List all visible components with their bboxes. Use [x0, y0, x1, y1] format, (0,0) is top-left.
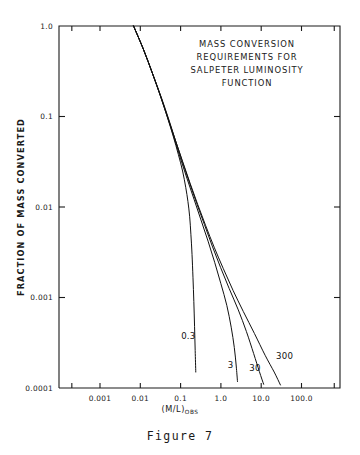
- figure-container: 0.0010.010.11.010.0100.0 1.00.10.010.001…: [0, 0, 360, 455]
- x-axis-ticks: [72, 26, 334, 388]
- y-axis-ticks: [59, 117, 340, 298]
- x-tick-label: 10.0: [252, 394, 270, 403]
- chart-title: MASS CONVERSIONREQUIREMENTS FORSALPETER …: [190, 39, 303, 88]
- x-axis-title-text: (M/L)OBS: [162, 404, 199, 415]
- chart-title-line: FUNCTION: [222, 78, 273, 88]
- x-tick-label: 0.01: [131, 394, 149, 403]
- y-tick-label: 0.01: [35, 203, 53, 212]
- y-axis-tick-labels: 1.00.10.010.0010.0001: [25, 22, 53, 393]
- curve-label-0.3: 0.3: [181, 331, 195, 341]
- x-axis-title: (M/L)OBS: [162, 404, 199, 415]
- figure-caption: Figure 7: [147, 429, 214, 443]
- x-axis-title-subscript: OBS: [185, 409, 199, 415]
- y-axis-title-text: FRACTION OF MASS CONVERTED: [16, 118, 26, 296]
- curve-0.3: [134, 26, 196, 372]
- x-tick-label: 100.0: [290, 394, 313, 403]
- x-tick-label: 0.1: [174, 394, 187, 403]
- y-axis-title: FRACTION OF MASS CONVERTED: [16, 118, 26, 296]
- chart-title-line: REQUIREMENTS FOR: [197, 52, 298, 62]
- curve-label-3: 3: [228, 360, 234, 370]
- curve-label-300: 300: [276, 351, 293, 361]
- y-tick-label: 0.1: [40, 112, 53, 121]
- y-tick-label: 0.0001: [25, 384, 53, 393]
- x-tick-label: 1.0: [215, 394, 228, 403]
- x-tick-label: 0.001: [89, 394, 112, 403]
- chart-svg: 0.0010.010.11.010.0100.0 1.00.10.010.001…: [0, 0, 360, 455]
- y-tick-label: 0.001: [30, 293, 53, 302]
- curve-label-30: 30: [249, 363, 260, 373]
- curve-labels: 0.3330300: [181, 331, 293, 373]
- x-axis-tick-labels: 0.0010.010.11.010.0100.0: [89, 394, 313, 403]
- chart-title-line: SALPETER LUMINOSITY: [190, 65, 303, 75]
- chart-title-line: MASS CONVERSION: [199, 39, 295, 49]
- plot-frame: [59, 26, 340, 388]
- y-tick-label: 1.0: [40, 22, 53, 31]
